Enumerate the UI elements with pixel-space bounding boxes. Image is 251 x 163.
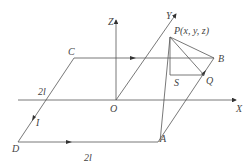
line-pb bbox=[170, 37, 214, 58]
side-da-dimension: 2l bbox=[84, 152, 92, 163]
point-s-label: S bbox=[174, 77, 179, 88]
point-a-label: A bbox=[159, 133, 167, 144]
side-cb-dimension: 2l bbox=[38, 86, 46, 97]
y-axis bbox=[116, 14, 176, 100]
point-d-label: D bbox=[11, 143, 20, 154]
line-pq bbox=[170, 37, 204, 75]
point-q-label: Q bbox=[206, 75, 214, 86]
arrow-cb-icon bbox=[130, 56, 136, 60]
diagram-canvas: X Y Z O C B D A P(x, y, z) S Q 2l 2l I bbox=[0, 0, 251, 163]
z-axis-label: Z bbox=[108, 16, 114, 27]
point-b-label: B bbox=[218, 53, 224, 64]
point-c-label: C bbox=[68, 46, 75, 57]
current-label: I bbox=[35, 117, 40, 128]
arrow-da-icon bbox=[66, 140, 72, 144]
x-axis-label: X bbox=[235, 103, 243, 114]
origin-label: O bbox=[110, 103, 117, 114]
point-p-label: P(x, y, z) bbox=[173, 25, 210, 37]
